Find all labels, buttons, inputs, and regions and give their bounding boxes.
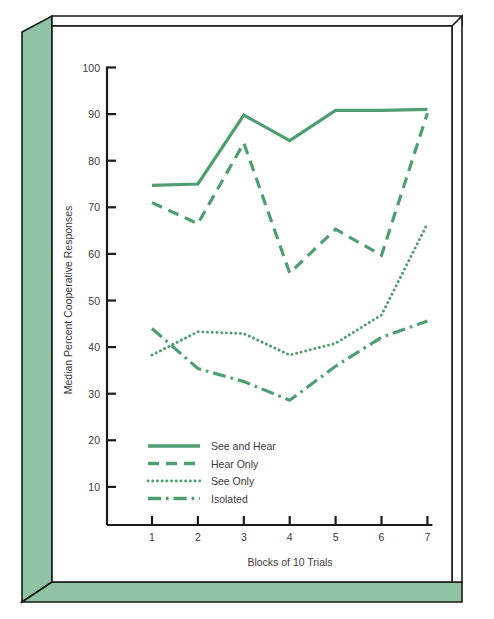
y-tick-label: 30 [88, 388, 100, 400]
y-tick-label: 90 [88, 108, 100, 120]
y-axis: 102030405060708090100 [82, 62, 116, 526]
y-tick-label: 100 [82, 62, 100, 74]
series-line [152, 109, 427, 185]
y-tick-label: 20 [88, 434, 100, 446]
x-axis: 1234567 [107, 516, 432, 543]
legend-label: See Only [211, 475, 255, 487]
x-axis-title: Blocks of 10 Trials [247, 556, 332, 568]
y-tick-label: 40 [88, 341, 100, 353]
legend-label: Isolated [211, 493, 248, 505]
y-tick-label: 80 [88, 155, 100, 167]
y-tick-label: 50 [88, 295, 100, 307]
y-tick-label: 10 [88, 481, 100, 493]
x-tick-label: 2 [195, 531, 201, 543]
chart-legend: See and HearHear OnlySee OnlyIsolated [148, 440, 276, 505]
x-tick-label: 7 [424, 531, 430, 543]
series-line [152, 113, 427, 273]
x-tick-label: 3 [241, 531, 247, 543]
x-tick-label: 4 [287, 531, 293, 543]
legend-label: See and Hear [211, 440, 276, 452]
legend-label: Hear Only [211, 458, 259, 470]
y-tick-label: 70 [88, 201, 100, 213]
x-tick-label: 6 [379, 531, 385, 543]
y-axis-title: Median Percent Cooperative Responses [62, 206, 74, 395]
line-chart: 102030405060708090100 1234567 See and He… [0, 0, 494, 619]
chart-figure: 102030405060708090100 1234567 See and He… [0, 0, 494, 619]
x-tick-label: 5 [333, 531, 339, 543]
y-tick-label: 60 [88, 248, 100, 260]
x-tick-label: 1 [149, 531, 155, 543]
data-series-group [152, 109, 427, 400]
